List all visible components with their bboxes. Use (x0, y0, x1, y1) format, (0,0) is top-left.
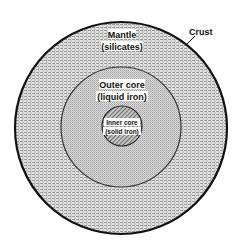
earth-layers-diagram: Crust Mantle (silicates) Outer core (liq… (0, 0, 241, 251)
mantle-composition-label: (silicates) (101, 42, 143, 52)
outer-core-composition-label: (liquid iron) (97, 92, 147, 102)
mantle-label: Mantle (108, 30, 137, 40)
inner-core-label: Inner core (106, 119, 138, 126)
inner-core-composition-label: (solid iron) (105, 128, 139, 136)
crust-pointer-line (186, 36, 195, 45)
outer-core-label: Outer core (99, 80, 145, 90)
crust-label: Crust (189, 27, 213, 37)
